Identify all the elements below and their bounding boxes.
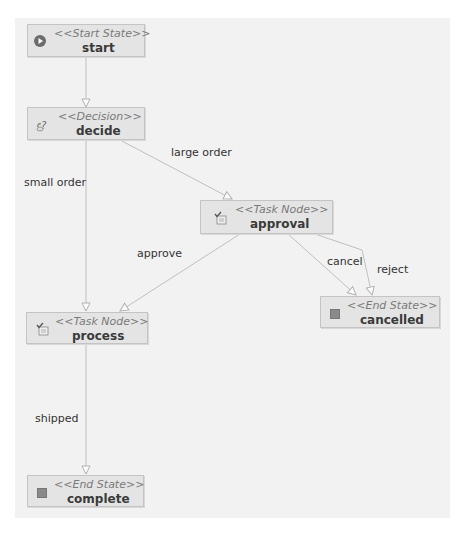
node-name: approval bbox=[250, 217, 309, 231]
edge-label-large-order: large order bbox=[171, 146, 232, 159]
node-process[interactable]: <<Task Node>> process bbox=[26, 312, 148, 344]
node-stereotype: <<End State>> bbox=[54, 478, 144, 491]
task-node-icon bbox=[214, 211, 228, 225]
node-stereotype: <<End State>> bbox=[347, 299, 437, 312]
node-name: start bbox=[82, 41, 115, 55]
end-state-icon bbox=[330, 309, 340, 319]
node-stereotype: <<Decision>> bbox=[58, 110, 142, 123]
edge-label-approve: approve bbox=[137, 247, 182, 260]
node-approval[interactable]: <<Task Node>> approval bbox=[200, 200, 333, 234]
edge-label-cancel: cancel bbox=[327, 255, 363, 268]
node-decide[interactable]: ? <<Decision>> decide bbox=[27, 107, 145, 140]
end-state-icon bbox=[37, 488, 47, 498]
edge-label-reject: reject bbox=[377, 263, 408, 276]
start-state-icon bbox=[33, 34, 47, 48]
node-name: decide bbox=[76, 124, 121, 138]
node-name: complete bbox=[67, 492, 130, 506]
node-stereotype: <<Task Node>> bbox=[55, 315, 148, 328]
node-name: cancelled bbox=[360, 313, 424, 327]
edge-label-small-order: small order bbox=[24, 176, 86, 189]
node-stereotype: <<Start State>> bbox=[54, 27, 150, 40]
node-complete[interactable]: <<End State>> complete bbox=[27, 475, 144, 507]
task-node-icon bbox=[36, 322, 50, 336]
node-name: process bbox=[72, 329, 124, 343]
decision-icon: ? bbox=[36, 118, 50, 132]
node-cancelled[interactable]: <<End State>> cancelled bbox=[320, 296, 440, 328]
node-stereotype: <<Task Node>> bbox=[235, 203, 328, 216]
edge-label-shipped: shipped bbox=[35, 412, 78, 425]
node-start[interactable]: <<Start State>> start bbox=[27, 24, 145, 57]
